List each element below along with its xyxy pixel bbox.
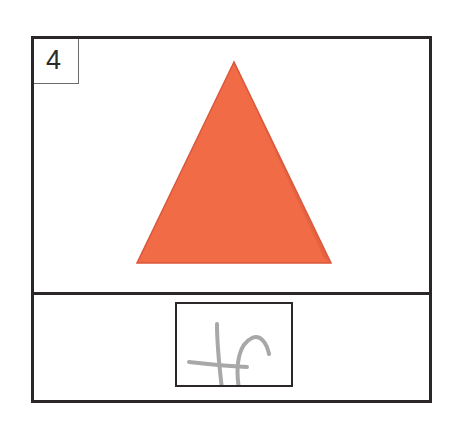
triangle-shape bbox=[34, 39, 429, 292]
shape-panel: 4 bbox=[34, 39, 429, 292]
panel-divider bbox=[34, 292, 429, 295]
answer-box[interactable] bbox=[175, 302, 293, 387]
shape-card: 4 bbox=[31, 36, 432, 403]
handwritten-answer-tr bbox=[177, 304, 291, 385]
